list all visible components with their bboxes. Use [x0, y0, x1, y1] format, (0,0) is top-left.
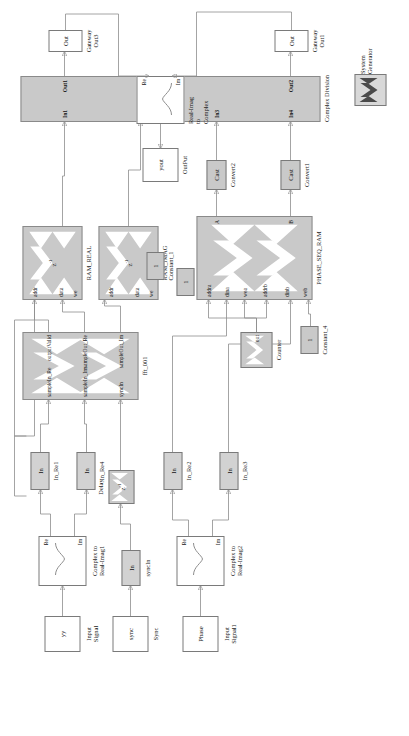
wire-layer-top [0, 0, 409, 736]
diagram-canvas: yy Input Signal Re Im Complex to Real-Im… [0, 0, 409, 736]
diagram-viewport: yy Input Signal Re Im Complex to Real-Im… [0, 0, 409, 736]
